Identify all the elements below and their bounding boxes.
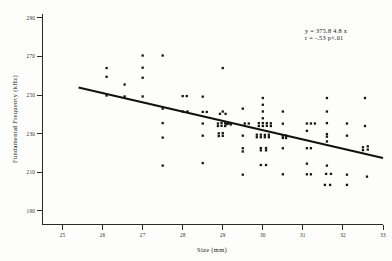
data-point	[262, 97, 264, 99]
data-point	[256, 136, 258, 138]
y-axis-title: Fundamental Frequency (kHz)	[11, 75, 19, 163]
y-tick-label: 250	[27, 92, 36, 98]
x-tick-label: 26	[100, 232, 106, 238]
data-point	[265, 164, 267, 166]
data-point	[262, 125, 264, 127]
x-axis-ticks: 252627282930313233	[60, 225, 386, 239]
data-point	[346, 122, 348, 124]
data-point	[105, 76, 107, 78]
data-point	[258, 125, 260, 127]
x-axis-title: Size (mm)	[197, 246, 227, 254]
data-point	[262, 104, 264, 106]
data-point	[268, 136, 270, 138]
regression-equation-label: y = 375.8 4.8 x	[305, 27, 348, 34]
data-point	[182, 95, 184, 97]
data-point	[162, 54, 164, 56]
data-point	[142, 67, 144, 69]
data-point	[162, 136, 164, 138]
data-point	[217, 122, 219, 124]
data-point	[260, 164, 262, 166]
data-point	[162, 122, 164, 124]
data-point	[202, 111, 204, 113]
data-point	[218, 132, 220, 134]
correlation-stats-label: r = -.53 p<.01	[305, 34, 344, 41]
data-point	[367, 148, 369, 150]
data-point	[306, 173, 308, 175]
data-point	[262, 122, 264, 124]
data-point	[242, 147, 244, 149]
data-point	[226, 123, 228, 125]
data-point	[206, 111, 208, 113]
data-point	[242, 174, 244, 176]
x-tick-label: 32	[340, 232, 346, 238]
data-point	[330, 173, 332, 175]
data-point	[217, 125, 219, 127]
data-point	[270, 122, 272, 124]
data-point	[326, 135, 328, 137]
data-point	[326, 164, 328, 166]
scatter-plot-figure: 190210230250270290 252627282930313233 y …	[0, 0, 392, 261]
data-point	[346, 135, 348, 137]
data-point	[306, 122, 308, 124]
y-tick-label: 230	[27, 131, 36, 137]
data-point	[285, 137, 287, 139]
data-point	[346, 184, 348, 186]
plot-canvas: 190210230250270290 252627282930313233 y …	[0, 0, 392, 261]
x-tick-label: 31	[300, 232, 306, 238]
y-tick-label: 210	[27, 169, 36, 175]
data-point	[202, 162, 204, 164]
data-points-group	[105, 54, 368, 186]
data-point	[260, 149, 262, 151]
data-point	[270, 125, 272, 127]
data-point	[306, 163, 308, 165]
data-point	[256, 134, 258, 136]
data-point	[326, 140, 328, 142]
data-point	[142, 54, 144, 56]
x-tick-label: 30	[260, 232, 266, 238]
data-point	[218, 135, 220, 137]
data-point	[162, 164, 164, 166]
data-point	[260, 134, 262, 136]
data-point	[366, 175, 368, 177]
data-point	[282, 137, 284, 139]
data-point	[282, 173, 284, 175]
data-point	[282, 123, 284, 125]
data-point	[264, 136, 266, 138]
x-tick-label: 27	[140, 232, 146, 238]
data-point	[326, 110, 328, 112]
data-point	[222, 110, 224, 112]
data-point	[258, 122, 260, 124]
data-point	[362, 149, 364, 151]
data-point	[306, 130, 308, 132]
data-point	[364, 125, 366, 127]
data-point	[202, 96, 204, 98]
data-point	[306, 147, 308, 149]
data-point	[242, 135, 244, 137]
y-tick-label: 270	[27, 53, 36, 59]
data-point	[314, 122, 316, 124]
x-tick-label: 29	[220, 232, 226, 238]
data-point	[242, 150, 244, 152]
data-point	[367, 145, 369, 147]
data-point	[265, 147, 267, 149]
data-point	[222, 132, 224, 134]
data-point	[282, 147, 284, 149]
data-point	[220, 122, 222, 124]
data-point	[262, 110, 264, 112]
x-tick-label: 33	[380, 232, 386, 238]
data-point	[248, 122, 250, 124]
data-point	[264, 134, 266, 136]
x-tick-label: 25	[60, 232, 66, 238]
data-point	[202, 122, 204, 124]
data-point	[282, 110, 284, 112]
data-point	[260, 136, 262, 138]
data-point	[262, 117, 264, 119]
data-point	[310, 147, 312, 149]
data-point	[142, 95, 144, 97]
data-point	[222, 67, 224, 69]
data-point	[326, 122, 328, 124]
data-point	[222, 135, 224, 137]
data-point	[326, 97, 328, 99]
data-point	[310, 173, 312, 175]
data-point	[362, 146, 364, 148]
